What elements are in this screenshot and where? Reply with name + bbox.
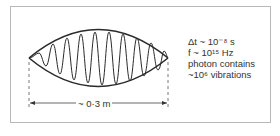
delta-t-text: Δt ~ 10⁻⁸ s: [188, 36, 255, 47]
vibrations-text: ~10⁶ vibrations: [188, 69, 255, 80]
frequency-text: f ~ 10¹⁵ Hz: [188, 47, 255, 58]
photon-contains-text: photon contains: [188, 58, 255, 69]
dimension-label: ~ 0·3 m: [76, 98, 112, 109]
annotation-block: Δt ~ 10⁻⁸ s f ~ 10¹⁵ Hz photon contains …: [188, 36, 255, 80]
wave-oscillation: [29, 32, 168, 85]
